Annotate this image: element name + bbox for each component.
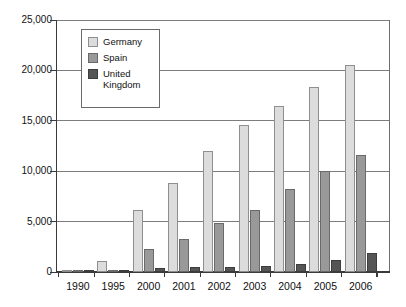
legend-swatch-uk (88, 69, 98, 79)
x-tick-mark (129, 272, 130, 277)
bar-group (343, 20, 378, 272)
y-tick-label: 15,000 (0, 116, 52, 126)
legend-label: United Kingdom (103, 68, 154, 90)
x-tick-mark (341, 272, 342, 277)
bar-uk (367, 253, 377, 272)
y-tick-label: 5,000 (0, 217, 52, 227)
bar-uk (296, 264, 306, 272)
chart-legend: GermanySpainUnited Kingdom (81, 29, 160, 108)
bar-uk (190, 267, 200, 272)
x-tick-mark (94, 272, 95, 277)
bar-germany (274, 106, 284, 272)
bar-uk (331, 260, 341, 272)
y-tick-label: 0 (0, 267, 52, 277)
bar-spain (250, 210, 260, 272)
bar-chart: 05,00010,00015,00020,00025,000 199019952… (0, 0, 406, 307)
y-tick-label: 10,000 (0, 166, 52, 176)
bar-germany (168, 183, 178, 272)
bar-spain (214, 223, 224, 272)
bar-germany (345, 65, 355, 272)
x-tick-mark (306, 272, 307, 277)
y-tick-label: 20,000 (0, 65, 52, 75)
x-tick-mark (235, 272, 236, 277)
bar-spain (285, 189, 295, 272)
legend-swatch-spain (88, 53, 98, 63)
bar-germany (62, 270, 72, 272)
bar-group (202, 20, 237, 272)
legend-label: Spain (103, 52, 127, 63)
bar-group (272, 20, 307, 272)
bar-germany (239, 125, 249, 272)
x-tick-mark (58, 272, 59, 277)
bar-group (308, 20, 343, 272)
bar-germany (97, 261, 107, 272)
bar-spain (73, 270, 83, 272)
x-tick-mark (376, 272, 377, 277)
x-tick-label: 2006 (338, 280, 384, 292)
bar-spain (320, 171, 330, 272)
bar-germany (133, 210, 143, 272)
bar-uk (119, 270, 129, 272)
bar-spain (108, 270, 118, 272)
x-tick-mark (164, 272, 165, 277)
legend-item: United Kingdom (88, 68, 154, 90)
y-tick-label: 25,000 (0, 15, 52, 25)
bar-group (166, 20, 201, 272)
x-tick-mark (270, 272, 271, 277)
bar-uk (155, 268, 165, 272)
bar-germany (203, 151, 213, 272)
bar-group (237, 20, 272, 272)
x-tick-mark (200, 272, 201, 277)
legend-item: Germany (88, 36, 154, 47)
bar-uk (225, 267, 235, 272)
bar-uk (261, 266, 271, 272)
bar-spain (179, 239, 189, 272)
legend-item: Spain (88, 52, 154, 63)
bar-germany (309, 87, 319, 272)
legend-swatch-germany (88, 37, 98, 47)
legend-label: Germany (103, 36, 142, 47)
bar-uk (84, 270, 94, 272)
bar-spain (356, 155, 366, 272)
bar-spain (144, 249, 154, 272)
